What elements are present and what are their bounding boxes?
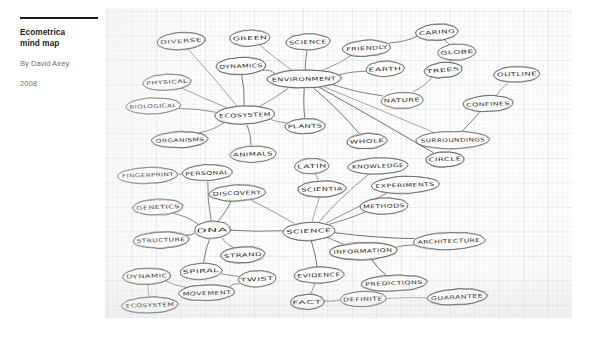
node-science_top[interactable]: SCIENCE: [286, 33, 331, 51]
node-globe[interactable]: GLOBE: [438, 43, 477, 61]
node-diverse[interactable]: DIVERSE: [156, 31, 205, 51]
caption-panel: Ecometrica mind map By David Airey 2008: [20, 17, 100, 89]
edge-personal-fingerprint: [179, 174, 181, 175]
nodes-layer: DIVERSEGREENSCIENCEFRIENDLYCARINGGLOBEDY…: [117, 23, 540, 314]
mind-map-graph: DIVERSEGREENSCIENCEFRIENDLYCARINGGLOBEDY…: [105, 8, 572, 318]
edge-science_main-discovery: [251, 200, 293, 223]
title-line-1: Ecometrica: [20, 28, 65, 37]
node-label: PLANTS: [288, 122, 323, 129]
node-dna[interactable]: DNA: [194, 221, 231, 239]
edge-trees-nature: [413, 78, 432, 92]
node-nature[interactable]: NATURE: [381, 91, 424, 108]
node-label: SURROUNDINGS: [421, 136, 485, 143]
edge-spiral-twist: [221, 274, 238, 277]
node-friendly[interactable]: FRIENDLY: [342, 39, 391, 57]
author-byline: By David Airey: [20, 59, 100, 69]
edge-movement-dynamic: [166, 281, 186, 287]
node-spiral[interactable]: SPIRAL: [180, 262, 223, 280]
node-organisms[interactable]: ORGANISMS: [151, 131, 208, 149]
node-label: GREEN: [233, 34, 268, 41]
edge-information-predictions: [372, 260, 386, 275]
edge-dna-spiral: [204, 239, 210, 261]
edge-ecosystem_top-diverse: [189, 50, 237, 106]
edge-science_main-information: [328, 238, 343, 244]
node-surroundings[interactable]: SURROUNDINGS: [416, 131, 490, 149]
node-knowledge[interactable]: KNOWLEDGE: [348, 157, 409, 175]
node-genetics[interactable]: GENETICS: [133, 198, 184, 216]
node-discovery[interactable]: DISCOVERY: [209, 184, 266, 202]
mind-map-photo: DIVERSEGREENSCIENCEFRIENDLYCARINGGLOBEDY…: [105, 8, 572, 318]
node-strand[interactable]: STRAND: [221, 246, 266, 264]
edge-environment-ecosystem_top: [260, 88, 288, 106]
edge-science_main-evidence: [311, 241, 317, 266]
node-guarantee[interactable]: GUARANTEE: [427, 287, 488, 306]
edge-globe-trees: [450, 60, 451, 61]
node-twist[interactable]: TWIST: [238, 270, 277, 288]
node-green[interactable]: GREEN: [230, 29, 271, 46]
edge-science_main-dna: [231, 230, 282, 231]
node-evidence[interactable]: EVIDENCE: [294, 266, 345, 284]
edge-information-architecture: [397, 245, 414, 247]
edge-environment-science_top: [305, 51, 307, 69]
node-label: EARTH: [368, 65, 401, 72]
node-plants[interactable]: PLANTS: [285, 118, 325, 134]
node-fingerprint[interactable]: FINGERPRINT: [117, 166, 178, 184]
node-caring[interactable]: CARING: [415, 23, 458, 42]
edge-dna-discovery: [218, 202, 230, 221]
edge-environment-friendly: [323, 56, 351, 70]
edge-ecosystem_top-biological: [179, 108, 216, 112]
node-information[interactable]: INFORMATION: [329, 241, 398, 260]
edge-environment-earth: [339, 71, 365, 74]
node-ecosystem_top[interactable]: ECOSYSTEM: [215, 105, 276, 125]
node-fact[interactable]: FACT: [290, 294, 325, 310]
edge-caring-globe: [445, 40, 449, 44]
node-label: NATURE: [384, 96, 421, 103]
node-label: FACT: [292, 298, 323, 305]
node-outline[interactable]: OUTLINE: [494, 65, 541, 83]
node-scientia[interactable]: SCIENTIA: [298, 180, 347, 198]
node-circle[interactable]: CIRCLE: [426, 151, 465, 167]
node-methods[interactable]: METHODS: [360, 197, 409, 215]
edge-environment-dynamics: [263, 70, 275, 73]
node-animals[interactable]: ANIMALS: [229, 145, 276, 163]
edge-dna-personal: [208, 182, 211, 221]
node-structure[interactable]: STRUCTURE: [133, 231, 190, 249]
node-trees[interactable]: TREES: [423, 61, 462, 79]
edge-friendly-caring: [389, 37, 416, 43]
node-dynamic[interactable]: DYNAMIC: [122, 267, 171, 285]
node-architecture[interactable]: ARCHITECTURE: [413, 231, 486, 251]
page-title: Ecometrica mind map: [20, 28, 100, 49]
node-dynamics[interactable]: DYNAMICS: [216, 57, 267, 76]
node-confines[interactable]: CONFINES: [463, 95, 514, 113]
edge-dna-strand: [222, 238, 233, 247]
node-latin[interactable]: LATIN: [294, 158, 329, 174]
edge-science_main-architecture: [335, 233, 414, 239]
node-ecosystem_bot[interactable]: ECOSYSTEM: [122, 296, 179, 314]
node-movement[interactable]: MOVEMENT: [178, 284, 235, 302]
node-label: ENVIRONMENT: [272, 75, 337, 82]
edge-outline-confines: [497, 83, 509, 96]
node-biological[interactable]: BIOLOGICAL: [126, 97, 181, 115]
edge-scientia-latin: [316, 174, 318, 180]
node-earth[interactable]: EARTH: [366, 61, 405, 77]
node-predictions[interactable]: PREDICTIONS: [361, 274, 428, 292]
edge-twist-movement: [230, 284, 239, 287]
mind-map-page: Ecometrica mind map By David Airey 2008 …: [0, 0, 597, 340]
node-environment[interactable]: ENVIRONMENT: [267, 69, 342, 88]
edge-evidence-fact: [311, 284, 315, 294]
edge-dna-genetics: [174, 214, 198, 225]
edge-definite-guarantee: [387, 297, 426, 298]
edge-ecosystem_top-dynamics: [242, 75, 244, 105]
node-label: LATIN: [297, 162, 327, 169]
node-definite[interactable]: DEFINITE: [340, 291, 387, 308]
edge-ecosystem_top-plants: [271, 120, 286, 123]
edge-science_main-scientia: [312, 198, 319, 221]
node-physical[interactable]: PHYSICAL: [142, 73, 191, 91]
node-label: CIRCLE: [428, 155, 461, 162]
node-personal[interactable]: PERSONAL: [182, 164, 233, 182]
edge-ecosystem_top-animals: [247, 125, 251, 145]
edge-fact-definite: [325, 300, 339, 301]
node-experiments[interactable]: EXPERIMENTS: [371, 175, 440, 194]
edge-dynamic-ecosystem_bot: [148, 285, 149, 296]
node-whole[interactable]: WHOLE: [347, 132, 388, 149]
